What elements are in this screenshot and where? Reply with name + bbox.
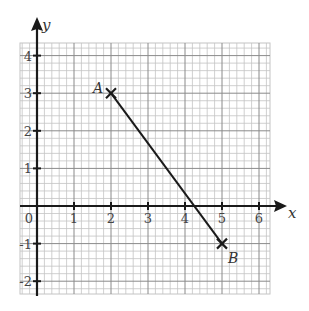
- x-tick-label: 1: [70, 211, 78, 226]
- point-a-label: A: [91, 80, 103, 96]
- y-tick-label: 4: [24, 49, 32, 64]
- x-tick-label: 3: [144, 211, 152, 226]
- point-b-label: B: [227, 250, 238, 266]
- y-tick-label: 2: [24, 124, 32, 139]
- x-tick-label: 0: [25, 211, 33, 226]
- y-tick-label: 3: [24, 86, 32, 101]
- x-tick-label: 5: [218, 211, 226, 226]
- y-axis-label: y: [41, 16, 51, 34]
- axes: [20, 17, 287, 296]
- y-tick-label: 1: [24, 161, 32, 176]
- x-tick-label: 6: [255, 211, 263, 226]
- y-tick-label: -1: [19, 237, 32, 252]
- y-tick-label: -2: [19, 274, 32, 289]
- x-tick-label: 4: [181, 211, 189, 226]
- x-tick-label: 2: [107, 211, 115, 226]
- coordinate-plot: 0123456-2-11234 x y A B: [0, 0, 309, 311]
- x-axis-label: x: [288, 204, 297, 222]
